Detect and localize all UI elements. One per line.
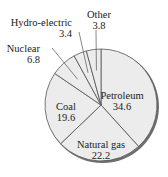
label-natural-gas: Natural gas 22.2	[77, 139, 125, 161]
label-petroleum-name: Petroleum	[100, 90, 143, 101]
label-natural-gas-name: Natural gas	[77, 139, 125, 150]
label-other: Other 3.8	[87, 9, 111, 31]
label-nuclear-value: 6.8	[7, 54, 40, 65]
label-other-name: Other	[87, 9, 111, 20]
label-nuclear-name: Nuclear	[7, 43, 40, 54]
label-other-value: 3.8	[87, 20, 111, 31]
label-coal-name: Coal	[56, 101, 76, 112]
label-petroleum-value: 34.6	[100, 101, 143, 112]
label-nuclear: Nuclear 6.8	[7, 43, 40, 65]
label-hydro-electric-value: 3.4	[11, 28, 72, 39]
label-hydro-electric: Hydro-electric 3.4	[11, 17, 72, 39]
label-hydro-electric-name: Hydro-electric	[11, 17, 72, 28]
label-petroleum: Petroleum 34.6	[100, 90, 143, 112]
label-coal: Coal 19.6	[56, 101, 76, 123]
label-natural-gas-value: 22.2	[77, 150, 125, 161]
label-coal-value: 19.6	[56, 112, 76, 123]
